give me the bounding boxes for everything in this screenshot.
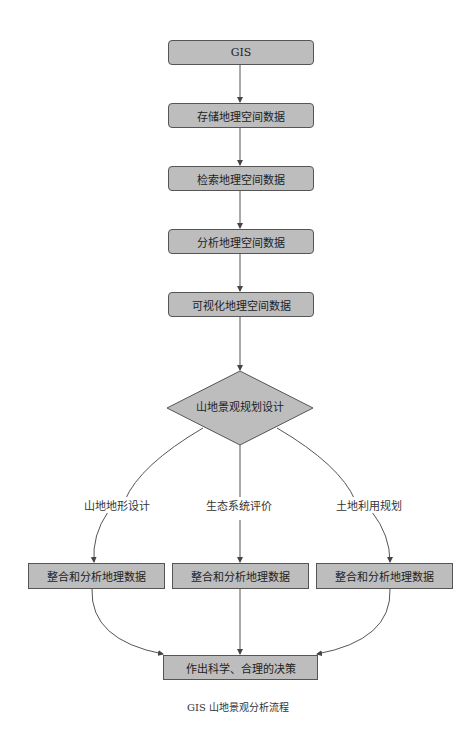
node-gis: GIS — [168, 40, 314, 65]
node-analyze-data: 分析地理空间数据 — [168, 229, 314, 254]
node-retrieve-data: 检索地理空间数据 — [168, 166, 314, 191]
edge-label-terrain-design: 山地地形设计 — [82, 497, 152, 513]
arrow-decision-left — [94, 428, 203, 562]
node-integrate-middle: 整合和分析地理数据 — [172, 563, 309, 589]
arrow-decision-right — [277, 428, 390, 562]
node-integrate-left: 整合和分析地理数据 — [28, 563, 165, 589]
node-store-data: 存储地理空间数据 — [168, 103, 314, 128]
node-integrate-right: 整合和分析地理数据 — [316, 563, 453, 589]
node-landscape-planning: 山地景观规划设计 — [167, 398, 313, 414]
edge-label-land-use: 土地利用规划 — [334, 497, 404, 513]
edge-label-ecosystem-eval: 生态系统评价 — [204, 497, 274, 513]
figure-caption: GIS 山地景观分析流程 — [0, 699, 476, 714]
arrow-right-final — [317, 589, 390, 654]
node-visualize-data: 可视化地理空间数据 — [168, 292, 314, 317]
node-final-decision: 作出科学、合理的决策 — [163, 655, 318, 680]
arrow-left-final — [92, 589, 163, 654]
